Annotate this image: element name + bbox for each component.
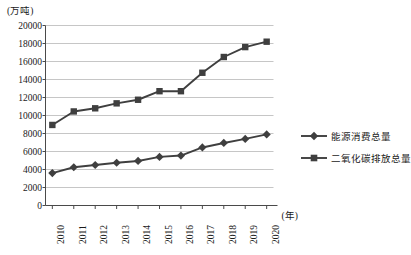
- x-axis-tick-label: 2013: [121, 225, 131, 244]
- x-axis-tick-label: 2011: [78, 225, 88, 244]
- x-axis-tick-label: 2017: [206, 225, 216, 244]
- data-point-square: [242, 44, 248, 50]
- legend-marker-diamond: [300, 129, 328, 143]
- data-point-diamond: [241, 135, 249, 143]
- data-point-square: [263, 39, 269, 45]
- data-point-diamond: [263, 130, 271, 138]
- data-point-square: [71, 108, 77, 114]
- x-axis-tick-label: 2014: [142, 225, 152, 244]
- x-axis-tick-label: 2010: [56, 225, 66, 244]
- data-point-square: [221, 54, 227, 60]
- legend-label: 二氧化碳排放总量: [331, 151, 411, 165]
- x-axis-unit-label: (年): [282, 208, 298, 222]
- x-axis-tick-label: 2015: [164, 225, 174, 244]
- legend-marker-square: [300, 151, 328, 165]
- data-point-square: [156, 88, 162, 94]
- x-axis-tick-label: 2016: [185, 225, 195, 244]
- data-point-square: [113, 100, 119, 106]
- data-point-diamond: [155, 153, 163, 161]
- data-point-square: [178, 88, 184, 94]
- data-point-diamond: [113, 159, 121, 167]
- data-point-square: [92, 105, 98, 111]
- data-point-diamond: [134, 157, 142, 165]
- data-point-square: [49, 122, 55, 128]
- data-point-diamond: [70, 163, 78, 171]
- data-point-square: [199, 70, 205, 76]
- legend-label: 能源消费总量: [331, 129, 391, 143]
- data-point-diamond: [91, 161, 99, 169]
- data-point-diamond: [177, 151, 185, 159]
- x-axis-tick-label: 2018: [228, 225, 238, 244]
- x-axis-tick-label: 2020: [271, 225, 281, 244]
- series-line-2: [52, 42, 266, 125]
- data-point-diamond: [48, 169, 56, 177]
- data-point-square: [135, 97, 141, 103]
- data-point-diamond: [220, 139, 228, 147]
- x-axis-tick-label: 2019: [249, 225, 259, 244]
- data-point-diamond: [198, 143, 206, 151]
- x-axis-tick-label: 2012: [99, 225, 109, 244]
